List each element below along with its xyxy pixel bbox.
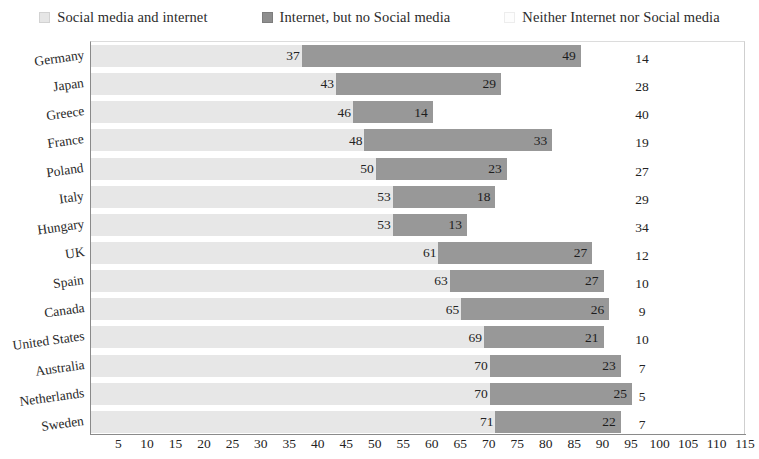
bar-segment-social-media-and-internet[interactable]: 70 [91,383,490,405]
bar-row: 70237 [91,352,744,380]
bar-value-label: 26 [591,303,610,317]
x-axis-tick: 110 [707,437,727,451]
y-axis-label-uk: UK [63,238,86,269]
stacked-bar[interactable]: 5313 [91,214,467,236]
bar-value-label-neither: 12 [629,249,655,263]
stacked-bar[interactable]: 5023 [91,158,507,180]
bar-value-label-neither: 10 [629,277,655,291]
bar-segment-internet-but-no-social-media[interactable]: 18 [393,186,496,208]
stacked-bar[interactable]: 3749 [91,45,581,67]
bar-segment-social-media-and-internet[interactable]: 61 [91,242,438,264]
stacked-bar[interactable]: 6921 [91,326,604,348]
x-axis-tick: 10 [140,437,154,451]
stacked-bar[interactable]: 6127 [91,242,592,264]
bar-value-label: 29 [483,77,502,91]
bar-value-label: 22 [602,415,621,429]
x-axis-tick: 70 [482,437,496,451]
x-axis-line [90,434,746,435]
stacked-bar[interactable]: 4329 [91,73,501,95]
x-axis-tick: 95 [624,437,638,451]
stacked-bar[interactable]: 7023 [91,355,621,377]
x-axis-tick: 15 [169,437,183,451]
bar-row: 483319 [91,126,744,154]
x-axis-tick-labels: 5101520253035404550556065707580859095100… [90,437,746,459]
bar-segment-internet-but-no-social-media[interactable]: 27 [438,242,592,264]
bar-row: 612712 [91,239,744,267]
bar-value-label: 27 [574,246,593,260]
chart-legend: Social media and internet Internet, but … [0,6,759,28]
stacked-bar[interactable]: 7122 [91,411,621,433]
bar-segment-internet-but-no-social-media[interactable]: 13 [393,214,467,236]
bar-value-label-neither: 34 [629,221,655,235]
stacked-bar[interactable]: 4833 [91,129,552,151]
bar-segment-internet-but-no-social-media[interactable]: 23 [376,158,507,180]
bar-segment-social-media-and-internet[interactable]: 70 [91,355,490,377]
y-axis-category-labels: GermanyJapanGreeceFrancePolandItalyHunga… [0,41,88,435]
bar-segment-internet-but-no-social-media[interactable]: 49 [302,45,581,67]
x-axis-tick: 75 [510,437,524,451]
bar-row: 692110 [91,323,744,351]
bar-row: 432928 [91,70,744,98]
bar-value-label-neither: 7 [629,418,655,432]
x-axis-tick: 40 [311,437,325,451]
stacked-bar[interactable]: 6526 [91,298,609,320]
bar-segment-social-media-and-internet[interactable]: 53 [91,214,393,236]
stacked-bar[interactable]: 7025 [91,383,632,405]
bar-segment-internet-but-no-social-media[interactable]: 21 [484,326,604,348]
bar-segment-internet-but-no-social-media[interactable]: 33 [364,129,552,151]
x-axis-tick: 25 [226,437,240,451]
bar-value-label: 18 [477,190,496,204]
bar-value-label: 21 [585,331,604,345]
bar-row: 502327 [91,155,744,183]
chart-plot-area: 3749144329284614404833195023275318295313… [90,41,745,435]
bar-segment-internet-but-no-social-media[interactable]: 27 [450,270,604,292]
bar-row: 374914 [91,42,744,70]
bar-segment-social-media-and-internet[interactable]: 43 [91,73,336,95]
bar-segment-social-media-and-internet[interactable]: 65 [91,298,461,320]
legend-item-neither-internet-nor-social-media: Neither Internet nor Social media [504,9,719,26]
bar-value-label-neither: 27 [629,165,655,179]
legend-label: Internet, but no Social media [280,9,451,26]
x-axis-tick: 55 [397,437,411,451]
x-axis-tick: 90 [596,437,610,451]
bar-segment-social-media-and-internet[interactable]: 71 [91,411,495,433]
x-axis-tick: 30 [254,437,268,451]
bar-row: 531829 [91,183,744,211]
bar-segment-internet-but-no-social-media[interactable]: 23 [490,355,621,377]
x-axis-tick: 105 [678,437,698,451]
dark-gray-square-icon [262,12,273,23]
x-axis-tick: 50 [368,437,382,451]
legend-label: Neither Internet nor Social media [522,9,719,26]
bar-row: 71227 [91,408,744,436]
bar-segment-social-media-and-internet[interactable]: 50 [91,158,376,180]
legend-item-social-media-and-internet: Social media and internet [39,9,207,26]
legend-label: Social media and internet [57,9,207,26]
stacked-bar[interactable]: 6327 [91,270,604,292]
bar-segment-internet-but-no-social-media[interactable]: 14 [353,101,433,123]
bar-value-label-neither: 9 [629,305,655,319]
bar-segment-internet-but-no-social-media[interactable]: 29 [336,73,501,95]
stacked-bar[interactable]: 5318 [91,186,495,208]
bar-segment-internet-but-no-social-media[interactable]: 26 [461,298,609,320]
bar-row: 461440 [91,98,744,126]
x-axis-tick: 80 [539,437,553,451]
x-axis-tick: 5 [115,437,122,451]
light-gray-square-icon [39,12,50,23]
bar-segment-internet-but-no-social-media[interactable]: 25 [490,383,632,405]
bar-value-label: 23 [488,162,507,176]
x-axis-tick: 45 [340,437,354,451]
y-axis-label-italy: Italy [58,182,86,213]
stacked-bar[interactable]: 4614 [91,101,433,123]
x-axis-tick: 20 [197,437,211,451]
bar-segment-social-media-and-internet[interactable]: 53 [91,186,393,208]
x-axis-tick: 115 [735,437,755,451]
bar-value-label-neither: 7 [629,362,655,376]
bar-segment-social-media-and-internet[interactable]: 63 [91,270,450,292]
bar-segment-social-media-and-internet[interactable]: 48 [91,129,364,151]
bar-value-label-neither: 29 [629,193,655,207]
bar-segment-social-media-and-internet[interactable]: 69 [91,326,484,348]
bar-value-label-neither: 10 [629,333,655,347]
bar-segment-internet-but-no-social-media[interactable]: 22 [495,411,620,433]
bar-segment-social-media-and-internet[interactable]: 46 [91,101,353,123]
bar-segment-social-media-and-internet[interactable]: 37 [91,45,302,67]
